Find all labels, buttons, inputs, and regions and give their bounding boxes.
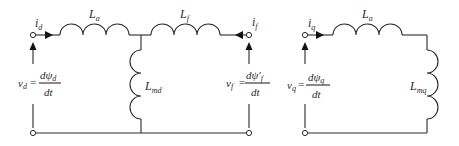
svg-text:dψd: dψd — [40, 69, 57, 83]
inductor-La-q — [333, 24, 402, 35]
label-iq: iq — [308, 16, 315, 32]
inductor-La-d — [60, 24, 129, 35]
svg-text:=: = — [239, 76, 245, 88]
equivalent-circuit-diagram: id La Lf if Lmd vd = dψd dt vf = dψ′f dt — [0, 0, 459, 146]
equation-vd: vd = dψd dt — [18, 69, 61, 98]
svg-text:vf: vf — [226, 77, 235, 91]
inductor-Lf — [151, 24, 220, 35]
terminal-d-bottom — [30, 130, 35, 135]
label-Lf: Lf — [179, 7, 191, 23]
svg-text:vq: vq — [287, 79, 296, 93]
terminal-f-top — [246, 32, 251, 37]
current-arrow-if — [235, 31, 243, 39]
label-if: if — [252, 15, 259, 31]
svg-text:dt: dt — [251, 86, 261, 98]
label-id: id — [35, 16, 43, 32]
svg-text:dt: dt — [44, 86, 54, 98]
svg-text:dt: dt — [312, 88, 322, 100]
inductor-Lmd — [130, 50, 141, 119]
current-arrow-id — [45, 31, 53, 39]
svg-text:vd: vd — [18, 77, 28, 91]
current-arrow-iq — [316, 31, 324, 39]
label-La-d: La — [88, 7, 100, 23]
label-Lmq: Lmq — [409, 79, 426, 95]
label-Lmd: Lmd — [144, 79, 162, 95]
voltage-arrow-vq — [302, 42, 309, 50]
svg-text:=: = — [298, 78, 304, 90]
voltage-arrow-vf — [246, 42, 253, 50]
voltage-arrow-vd — [30, 42, 37, 50]
terminal-d-top — [30, 32, 35, 37]
d-axis-circuit: id La Lf if Lmd vd = dψd dt vf = dψ′f dt — [18, 7, 270, 136]
label-La-q: La — [361, 7, 373, 23]
svg-text:dψ′f: dψ′f — [246, 69, 265, 83]
svg-text:dψq: dψq — [308, 71, 324, 85]
equation-vf: vf = dψ′f dt — [226, 69, 270, 98]
terminal-f-bottom — [246, 130, 251, 135]
inductor-Lmq — [427, 50, 438, 119]
svg-text:=: = — [30, 76, 36, 88]
equation-vq: vq = dψq dt — [287, 71, 330, 100]
q-axis-circuit: iq La Lmq vq = dψq dt — [287, 7, 438, 136]
terminal-q-bottom — [302, 130, 307, 135]
terminal-q-top — [302, 32, 307, 37]
